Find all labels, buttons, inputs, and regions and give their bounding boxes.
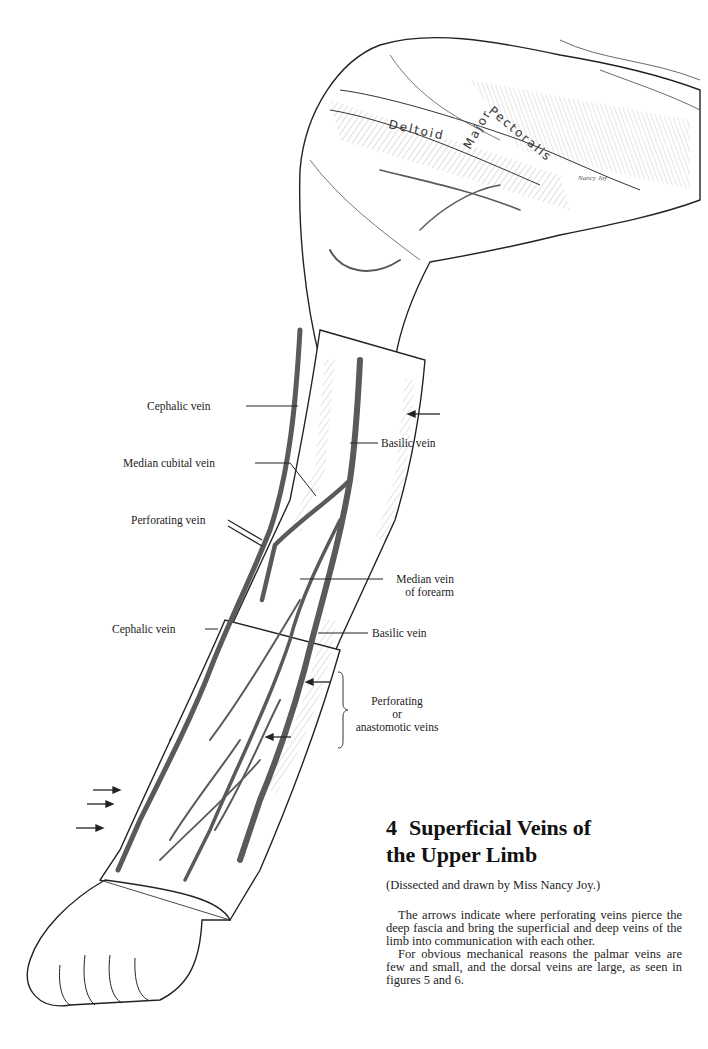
label-perforating-line2: or [349,708,445,721]
perforating-probe [228,520,262,546]
figure-description: The arrows indicate where perforating ve… [386,909,682,987]
label-perforating-anastomotic: Perforating or anastomotic veins [349,695,445,734]
label-perforating-line1: Perforating [349,695,445,708]
figure-title-line2: the Upper Limb [386,841,686,868]
paragraph-1: The arrows indicate where perforating ve… [386,909,682,948]
label-cephalic-vein-lower: Cephalic vein [112,623,176,636]
figure-credit: (Dissected and drawn by Miss Nancy Joy.) [386,878,600,893]
hand [27,880,230,1006]
label-cephalic-vein-upper: Cephalic vein [147,400,211,413]
arm-vein-illustration: Deltoid Pectoralis Major Nancy Joy [0,0,708,1049]
label-median-vein-line1: Median vein [386,573,454,586]
label-median-vein-line2: of forearm [386,586,454,599]
figure-title-line1: Superficial Veins of [409,815,591,840]
label-median-vein-forearm: Median vein of forearm [386,573,454,599]
label-median-cubital-vein: Median cubital vein [123,457,215,470]
artist-signature: Nancy Joy [577,174,608,182]
brace [338,672,348,748]
label-basilic-vein-lower: Basilic vein [372,627,427,640]
label-basilic-vein-upper: Basilic vein [381,437,436,450]
label-perforating-line3: anastomotic veins [349,721,445,734]
label-perforating-vein: Perforating vein [131,514,205,527]
paragraph-2: For obvious mechanical reasons the palma… [386,948,682,987]
figure-number: 4 [386,815,397,840]
shoulder-region: Deltoid Pectoralis Major Nancy Joy [300,38,700,360]
figure-title: 4Superficial Veins of the Upper Limb [386,814,686,868]
